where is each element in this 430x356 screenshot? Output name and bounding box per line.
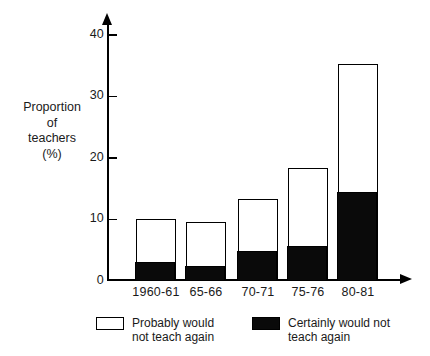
legend-label-probably-line-1: Probably would [132,316,214,330]
y-axis-title-line-3: teachers [6,131,98,147]
legend-swatch-white-icon [96,317,124,330]
y-tick-0 [108,280,117,281]
bar-segment-certainly-65-66[interactable] [185,266,225,280]
bar-segment-certainly-1960-61[interactable] [135,262,175,280]
y-tick-label-0: 0 [78,274,104,287]
y-tick-label-20: 20 [78,151,104,164]
legend-swatch-black-icon [252,317,280,330]
y-axis-title-line-2: of [6,116,98,132]
bar-65-66[interactable] [186,222,226,280]
bar-segment-certainly-80-81[interactable] [337,192,377,281]
y-tick-label-40: 40 [78,28,104,41]
x-tick-label-80-81: 80-81 [321,286,395,299]
legend-label-probably: Probably would not teach again [132,316,214,344]
chart-legend: Probably would not teach again Certainly… [60,316,400,350]
y-tick-label-10: 10 [78,212,104,225]
legend-item-certainly[interactable]: Certainly would not teach again [252,316,390,344]
legend-label-probably-line-2: not teach again [132,330,214,344]
bar-75-76[interactable] [288,168,328,280]
plot-area [107,22,402,280]
legend-label-certainly-line-1: Certainly would not [288,316,390,330]
y-axis-title-line-1: Proportion [6,100,98,116]
bar-segment-certainly-75-76[interactable] [287,246,327,280]
bar-1960-61[interactable] [136,219,176,280]
bar-70-71[interactable] [238,199,278,280]
legend-label-certainly-line-2: teach again [288,330,390,344]
legend-label-certainly: Certainly would not teach again [288,316,390,344]
bar-80-81[interactable] [338,64,378,280]
legend-item-probably[interactable]: Probably would not teach again [96,316,214,344]
bar-segment-certainly-70-71[interactable] [237,251,277,280]
chart-figure: Proportion of teachers (%) 010203040 196… [0,0,430,356]
y-tick-label-30: 30 [78,89,104,102]
